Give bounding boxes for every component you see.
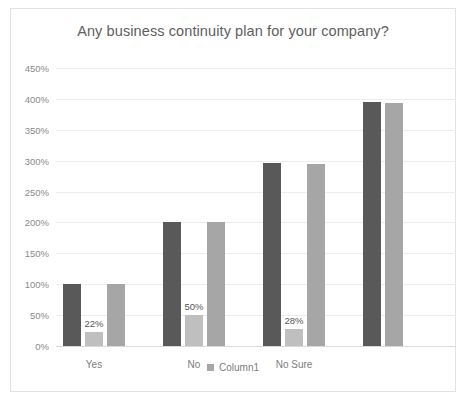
y-axis-tick-label: 0% <box>35 341 49 352</box>
bar[interactable] <box>307 164 325 346</box>
chart-legend: Column1 <box>11 362 455 373</box>
y-axis-tick-label: 250% <box>25 186 49 197</box>
bar-group: 22%Yes <box>56 68 156 346</box>
bar[interactable] <box>385 103 403 346</box>
y-axis-tick-label: 150% <box>25 248 49 259</box>
bar-group: 50%No <box>156 68 256 346</box>
legend-swatch-icon <box>207 364 214 371</box>
y-axis-tick-label: 350% <box>25 124 49 135</box>
bar[interactable]: 28% <box>285 329 303 346</box>
plot-area: 0%50%100%150%200%250%300%350%400%450%22%… <box>56 68 456 346</box>
bar[interactable]: 22% <box>85 332 103 346</box>
bar[interactable]: 50% <box>185 315 203 346</box>
bar[interactable] <box>263 163 281 346</box>
chart-frame: Any business continuity plan for your co… <box>10 8 456 392</box>
bar[interactable] <box>163 222 181 346</box>
bar[interactable] <box>207 222 225 346</box>
y-axis-tick-label: 50% <box>30 310 49 321</box>
bar-data-label: 50% <box>184 301 203 312</box>
bar-data-label: 28% <box>284 315 303 326</box>
y-axis-tick-label: 300% <box>25 155 49 166</box>
bar[interactable] <box>63 284 81 346</box>
bar-group <box>356 68 456 346</box>
chart-title: Any business continuity plan for your co… <box>11 23 455 39</box>
bar-group: 28%No Sure <box>256 68 356 346</box>
y-axis-tick-label: 100% <box>25 279 49 290</box>
legend-label: Column1 <box>219 362 259 373</box>
bar[interactable] <box>107 284 125 346</box>
bar-data-label: 22% <box>84 318 103 329</box>
y-axis-tick-label: 400% <box>25 93 49 104</box>
y-axis-tick-label: 200% <box>25 217 49 228</box>
y-axis-tick-label: 450% <box>25 63 49 74</box>
gridline <box>56 346 456 347</box>
bar[interactable] <box>363 102 381 346</box>
